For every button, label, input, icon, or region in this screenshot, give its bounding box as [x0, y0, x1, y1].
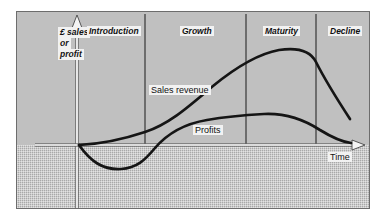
y-axis-label-line-1: £ sales: [58, 27, 90, 38]
arrow-right-icon: [352, 140, 365, 150]
phase-label-maturity: Maturity: [263, 26, 300, 36]
y-axis-label-line-2: or: [58, 38, 71, 49]
phase-label-growth: Growth: [180, 26, 214, 36]
x-axis-label: Time: [328, 152, 352, 162]
diagram-canvas: £ sales or profit Introduction Growth Ma…: [0, 0, 385, 223]
profits-curve: [79, 114, 351, 169]
curve-label-sales-revenue: Sales revenue: [149, 85, 211, 95]
phase-label-decline: Decline: [328, 26, 362, 36]
diagram-frame: £ sales or profit Introduction Growth Ma…: [16, 11, 370, 209]
curve-label-profits: Profits: [193, 125, 223, 135]
y-axis-label-line-3: profit: [58, 49, 84, 60]
phase-label-introduction: Introduction: [87, 26, 141, 36]
